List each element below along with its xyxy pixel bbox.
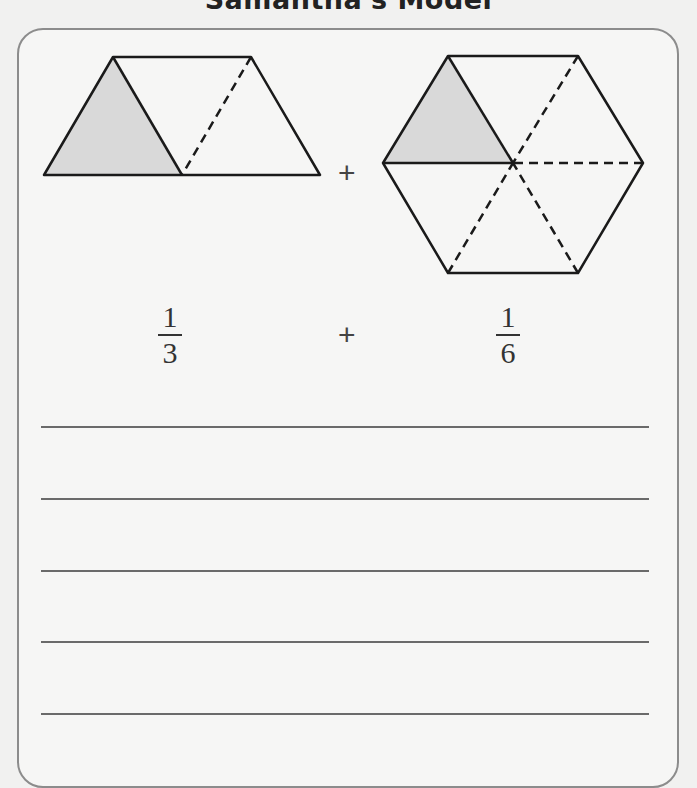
plus-sign: + — [338, 318, 356, 352]
numerator: 1 — [150, 302, 190, 332]
fraction-one-sixth: 1 6 — [488, 302, 528, 368]
trapezoid-model — [44, 57, 320, 175]
hexagon-model — [383, 56, 643, 273]
fraction-one-third: 1 3 — [150, 302, 190, 368]
answer-line[interactable] — [41, 570, 649, 572]
shaded-triangle — [44, 57, 182, 175]
answer-line[interactable] — [41, 713, 649, 715]
plus-sign-top: + — [338, 156, 356, 190]
denominator: 6 — [488, 338, 528, 368]
numerator: 1 — [488, 302, 528, 332]
denominator: 3 — [150, 338, 190, 368]
shaded-triangle — [383, 56, 513, 163]
answer-line[interactable] — [41, 641, 649, 643]
answer-line[interactable] — [41, 498, 649, 500]
answer-line[interactable] — [41, 426, 649, 428]
